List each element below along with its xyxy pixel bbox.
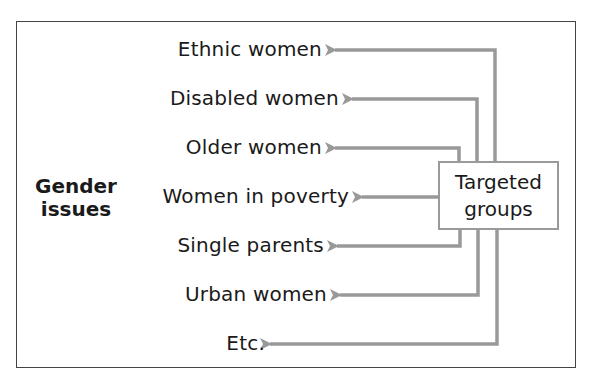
group-women-in-poverty: Women in poverty <box>163 184 349 208</box>
group-ethnic-women: Ethnic women <box>178 37 322 61</box>
gender-issues-line-2: issues <box>28 198 124 221</box>
arrow-ethnic-women <box>335 50 495 161</box>
group-etc: Etc. <box>226 331 265 355</box>
arrow-single-parents <box>337 230 460 246</box>
targeted-groups-line-1: Targeted <box>440 169 557 196</box>
group-urban-women: Urban women <box>185 282 327 306</box>
arrow-older-women <box>335 148 459 161</box>
targeted-groups-box: Targeted groups <box>438 161 559 230</box>
targeted-groups-line-2: groups <box>440 196 557 223</box>
gender-issues-label: Gender issues <box>28 175 124 221</box>
group-single-parents: Single parents <box>177 233 324 257</box>
arrow-urban-women <box>340 230 478 295</box>
group-older-women: Older women <box>186 135 322 159</box>
group-disabled-women: Disabled women <box>170 86 339 110</box>
gender-issues-line-1: Gender <box>28 175 124 198</box>
